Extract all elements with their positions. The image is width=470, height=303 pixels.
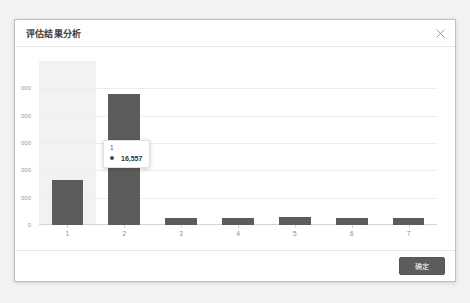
y-axis-tick-label: 000 — [21, 140, 31, 146]
gridline — [39, 143, 437, 144]
dialog-title: 评估结果分析 — [26, 27, 81, 40]
gridline — [39, 198, 437, 199]
x-axis-tickmark — [67, 225, 68, 228]
x-axis-tick-label: 5 — [293, 230, 297, 237]
x-axis-tickmark — [124, 225, 125, 228]
y-axis-tick-label: 000 — [21, 195, 31, 201]
x-axis-tick-label: 6 — [350, 230, 354, 237]
plot-area: 1234567 — [39, 61, 437, 225]
gridline — [39, 116, 437, 117]
bar[interactable] — [52, 180, 84, 225]
gridline — [39, 88, 437, 89]
y-axis: 0000000000000000 — [15, 47, 39, 250]
x-axis-tick-label: 3 — [179, 230, 183, 237]
y-axis-tick-label: 000 — [21, 113, 31, 119]
gridline — [39, 170, 437, 171]
x-axis-tick-label: 4 — [236, 230, 240, 237]
dialog-body: 0000000000000000 1234567 1 16,557 — [15, 47, 455, 250]
y-axis-tick-label: 000 — [21, 85, 31, 91]
x-axis-tickmark — [352, 225, 353, 228]
x-axis-tick-label: 7 — [407, 230, 411, 237]
dialog-footer: 确定 — [15, 250, 455, 281]
close-icon[interactable] — [432, 25, 448, 41]
bar[interactable] — [108, 94, 140, 225]
confirm-button[interactable]: 确定 — [399, 257, 445, 275]
x-axis-tickmark — [295, 225, 296, 228]
x-axis-tick-label: 1 — [66, 230, 70, 237]
bar[interactable] — [336, 218, 368, 225]
evaluation-result-dialog: 评估结果分析 0000000000000000 1234567 1 16,557 — [14, 19, 456, 282]
x-axis-tickmark — [409, 225, 410, 228]
y-axis-tick-label: 0 — [28, 222, 31, 228]
bar[interactable] — [279, 217, 311, 225]
dialog-header: 评估结果分析 — [15, 20, 455, 47]
y-axis-tick-label: 000 — [21, 167, 31, 173]
x-axis-tickmark — [181, 225, 182, 228]
bar-chart[interactable]: 0000000000000000 1234567 1 16,557 — [15, 47, 455, 250]
x-axis-tickmark — [238, 225, 239, 228]
bar[interactable] — [222, 218, 254, 225]
x-axis-tick-label: 2 — [122, 230, 126, 237]
bar[interactable] — [393, 218, 425, 225]
